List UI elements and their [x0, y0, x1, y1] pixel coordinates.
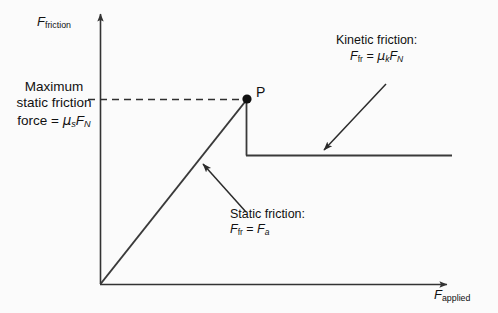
max-static-line-3-prefix: force =	[17, 113, 62, 128]
applied-force-subscript: a	[265, 227, 270, 237]
y-axis-label: Ffriction	[37, 14, 71, 31]
static-friction-pointer-arrow	[203, 164, 246, 212]
static-friction-title: Static friction:	[230, 207, 305, 221]
kinetic-friction-label: Kinetic friction: Ffr = μkFN	[336, 33, 417, 65]
point-p-marker	[242, 94, 251, 103]
static-friction-formula: Ffr = Fa	[230, 222, 305, 237]
kinetic-friction-pointer-arrow	[324, 84, 386, 150]
normal-force-subscript: N	[84, 119, 91, 129]
applied-force-symbol: F	[257, 222, 265, 236]
x-axis-label: Fapplied	[434, 287, 470, 304]
static-friction-label: Static friction: Ffr = Fa	[230, 207, 305, 238]
normal-force-symbol: F	[76, 113, 84, 128]
max-static-friction-label: Maximum static friction force = μsFN	[12, 79, 96, 130]
point-p-label: P	[256, 84, 265, 101]
kinetic-fr-symbol: F	[350, 49, 358, 63]
static-friction-curve-segment	[101, 100, 247, 284]
kinetic-normal-force-symbol: F	[389, 49, 397, 63]
kinetic-normal-force-subscript: N	[397, 54, 403, 64]
y-axis-subscript: friction	[45, 20, 71, 30]
mu-k-symbol: μ	[377, 48, 385, 63]
x-axis-symbol: F	[434, 287, 442, 302]
y-axis-symbol: F	[37, 14, 45, 29]
max-static-line-2: static friction	[16, 95, 91, 110]
static-equals: =	[243, 222, 257, 236]
graph-canvas	[0, 0, 498, 313]
kinetic-equals: =	[363, 49, 377, 63]
max-static-line-1: Maximum	[25, 79, 84, 94]
kinetic-friction-title: Kinetic friction:	[336, 33, 417, 47]
static-fr-symbol: F	[230, 222, 238, 236]
friction-graph-figure: Ffriction Fapplied Maximum static fricti…	[0, 0, 498, 313]
mu-s-symbol: μ	[63, 112, 72, 128]
kinetic-friction-formula: Ffr = μkFN	[336, 48, 417, 64]
x-axis-subscript: applied	[442, 293, 470, 303]
